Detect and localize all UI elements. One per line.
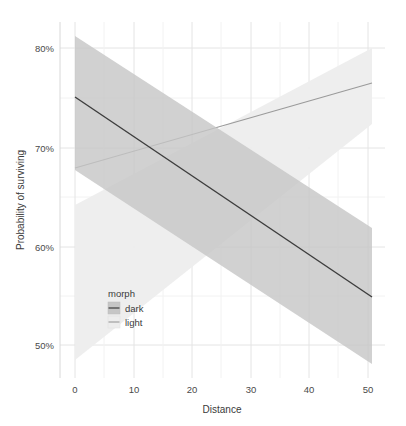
regression-chart: 80% 70% 60% 50% 0 10 20 30 40 50 Distanc… <box>0 0 406 426</box>
legend-label-dark: dark <box>125 303 144 314</box>
y-tick-label-60: 60% <box>35 242 55 253</box>
x-tick-label-0: 0 <box>72 384 77 395</box>
legend-item-dark[interactable]: dark <box>108 302 144 314</box>
x-tick-label-50: 50 <box>363 384 374 395</box>
x-tick-label-40: 40 <box>304 384 315 395</box>
y-tick-label-80: 80% <box>35 43 55 54</box>
y-tick-label-70: 70% <box>35 143 55 154</box>
legend-title: morph <box>108 288 135 299</box>
legend-item-light[interactable]: light <box>108 316 143 328</box>
y-axis-title: Probability of surviving <box>15 150 26 250</box>
x-tick-label-10: 10 <box>129 384 140 395</box>
legend-label-light: light <box>125 317 143 328</box>
x-tick-label-20: 20 <box>187 384 198 395</box>
y-tick-label-50: 50% <box>35 340 55 351</box>
x-axis-title: Distance <box>203 404 242 415</box>
x-tick-label-30: 30 <box>246 384 257 395</box>
